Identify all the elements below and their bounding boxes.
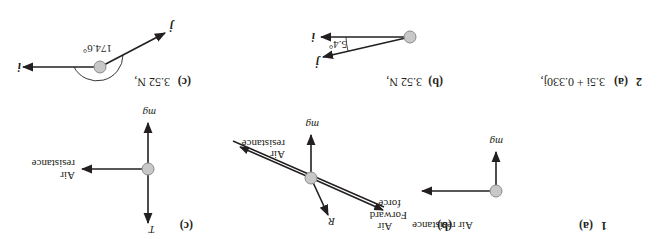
question-number-1: 1 — [601, 219, 607, 232]
part-label-2a: (a) — [614, 75, 628, 88]
particle — [404, 31, 416, 43]
diagram-2c — [23, 33, 165, 81]
air-resistance-arrow — [311, 178, 383, 210]
part-label-2b: (b) — [428, 75, 443, 88]
label-mg-c: mg — [143, 106, 156, 119]
force-diagrams — [0, 0, 665, 239]
angle-label-2c: 174.6° — [83, 42, 112, 55]
unit-j-label-2c: j — [170, 20, 173, 33]
part-label-2c: (c) — [178, 75, 191, 88]
unit-i-label-2c: i — [18, 60, 21, 73]
label-force: force — [378, 197, 401, 210]
answer-2b: 3.52 N, — [386, 75, 422, 88]
label-forward: Forward — [370, 209, 407, 222]
part-label-1c: (c) — [180, 219, 193, 232]
label-resistance-c: resistance — [32, 157, 75, 170]
diagram-1c — [82, 123, 154, 223]
label-mg-b: mg — [306, 118, 319, 131]
particle — [490, 185, 502, 197]
label-air-c: Air — [60, 169, 75, 182]
label-mg: mg — [490, 135, 503, 148]
angle-label-2b: 5.4° — [329, 38, 347, 51]
diagram-1a — [422, 152, 502, 197]
label-T: T — [149, 223, 155, 236]
label-R: R — [328, 215, 335, 228]
unit-i-label-2b: i — [312, 30, 315, 43]
answer-2c: 3.52 N, — [134, 75, 170, 88]
question-number-2: 2 — [636, 75, 642, 88]
particle — [94, 61, 106, 73]
label-resistance-b: resistance — [242, 137, 285, 150]
part-label-1a: (a) — [579, 219, 593, 232]
answer-page: 1 (a) Air resistance mg (b) Air Forward … — [0, 0, 665, 239]
particle — [142, 163, 154, 175]
answer-2a: 3.5i + 0.330j, — [541, 75, 605, 88]
particle — [305, 172, 317, 184]
unit-j-label-2b: j — [316, 56, 319, 69]
part-label-1b: (b) — [437, 219, 452, 232]
